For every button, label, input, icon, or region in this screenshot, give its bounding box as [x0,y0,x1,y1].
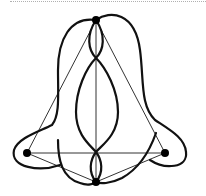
edge-top-left [27,20,96,153]
graph-diagram [0,0,206,196]
edge-right-bottom [96,153,165,182]
outer-left-curve [14,20,96,169]
edge-top-right [96,20,165,153]
vertex-top [92,16,100,24]
vertex-right [161,149,169,157]
curved-strands [14,15,186,185]
right-hook-curve [96,133,156,183]
vertex-bottom [92,178,100,186]
outer-right-curve [96,15,186,166]
vertex-left [23,149,31,157]
